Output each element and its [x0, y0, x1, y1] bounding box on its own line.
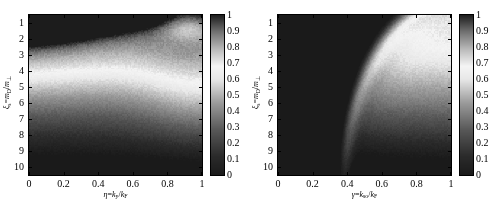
colorbar-tick-label: 0.4 [227, 106, 240, 116]
y-tick-label: 2 [268, 34, 273, 44]
axis-tick [448, 135, 451, 136]
axis-tick [199, 23, 202, 24]
y-tick-label: 1 [268, 18, 273, 28]
heatmap-axes-left[interactable] [28, 14, 203, 176]
axis-tick [278, 71, 281, 72]
colorbar-tick-label: 0.1 [227, 154, 240, 164]
heatmap-image-right [278, 15, 451, 175]
axis-tick [416, 15, 417, 18]
axis-tick [29, 172, 30, 175]
heatmap-image-left [29, 15, 202, 175]
axis-tick [278, 103, 281, 104]
colorbar-tick-label: 0 [476, 170, 481, 180]
axis-tick [448, 151, 451, 152]
y-tick-label: 5 [268, 82, 273, 92]
x-tick-label: 0 [27, 178, 32, 190]
axis-tick [448, 55, 451, 56]
axis-tick [133, 172, 134, 175]
axis-tick [167, 172, 168, 175]
colorbar-tick-label: 0.2 [476, 138, 489, 148]
axis-tick [416, 172, 417, 175]
axis-tick [201, 15, 202, 18]
y-tick-label: 2 [19, 34, 24, 44]
axis-tick [278, 167, 281, 168]
axis-tick [278, 23, 281, 24]
y-tick-label: 3 [19, 50, 24, 60]
panel-left: 00.20.40.60.81 12345678910 η=ky/kF ξs=mD… [0, 0, 249, 214]
axis-tick [278, 119, 281, 120]
x-tick-label: 0.8 [410, 178, 423, 190]
axis-tick [450, 172, 451, 175]
axis-tick [29, 15, 30, 18]
axis-tick [278, 172, 279, 175]
axis-tick [313, 15, 314, 18]
x-tick-label: 0.6 [376, 178, 389, 190]
x-tick-label: 1 [200, 178, 205, 190]
axis-tick [98, 172, 99, 175]
axis-tick [133, 15, 134, 18]
axis-tick [199, 135, 202, 136]
x-tick-labels-right: 00.20.40.60.81 [277, 178, 452, 190]
axis-tick [29, 71, 32, 72]
y-tick-label: 1 [19, 18, 24, 28]
colorbar-tick-label: 0.7 [227, 58, 240, 68]
axis-tick [278, 151, 281, 152]
colorbar-tick-labels-left: 00.10.20.30.40.50.60.70.80.91 [227, 14, 249, 176]
figure-root: 00.20.40.60.81 12345678910 η=ky/kF ξs=mD… [0, 0, 498, 214]
y-tick-label: 9 [19, 146, 24, 156]
axis-tick [448, 167, 451, 168]
axis-tick [199, 167, 202, 168]
colorbar-tick-label: 0.5 [227, 90, 240, 100]
axis-tick [98, 15, 99, 18]
axis-tick [278, 87, 281, 88]
heatmap-axes-right[interactable] [277, 14, 452, 176]
colorbar-tick-label: 0.7 [476, 58, 489, 68]
colorbar-tick-label: 0.3 [227, 122, 240, 132]
axis-tick [278, 15, 279, 18]
axis-tick [199, 71, 202, 72]
x-tick-label: 0.4 [341, 178, 354, 190]
y-tick-label: 7 [19, 114, 24, 124]
axis-tick [313, 172, 314, 175]
colorbar-tick-labels-right: 00.10.20.30.40.50.60.70.80.91 [476, 14, 498, 176]
axis-tick [29, 87, 32, 88]
y-tick-label: 10 [14, 162, 24, 172]
axis-tick [199, 87, 202, 88]
axis-tick [382, 172, 383, 175]
colorbar-tick-label: 0.9 [476, 26, 489, 36]
y-tick-label: 8 [268, 130, 273, 140]
y-axis-label-left: ξs=mD/m⊥ [2, 58, 11, 128]
axis-tick [64, 172, 65, 175]
axis-tick [199, 55, 202, 56]
axis-tick [199, 151, 202, 152]
colorbar-tick-label: 0.8 [227, 42, 240, 52]
axis-tick [29, 167, 32, 168]
axis-tick [448, 87, 451, 88]
y-tick-label: 6 [268, 98, 273, 108]
colorbar-tick-label: 1 [227, 10, 232, 20]
axis-tick [29, 119, 32, 120]
colorbar-tick-label: 0.8 [476, 42, 489, 52]
axis-tick [167, 15, 168, 18]
y-tick-label: 4 [268, 66, 273, 76]
y-tick-label: 5 [19, 82, 24, 92]
colorbar-tick-label: 0.5 [476, 90, 489, 100]
x-tick-label: 0.4 [92, 178, 105, 190]
colorbar-right[interactable] [459, 14, 474, 176]
axis-tick [450, 15, 451, 18]
x-tick-label: 0.8 [161, 178, 174, 190]
axis-tick [29, 151, 32, 152]
colorbar-tick-label: 0.6 [227, 74, 240, 84]
axis-tick [448, 71, 451, 72]
y-tick-label: 6 [19, 98, 24, 108]
axis-tick [278, 135, 281, 136]
y-tick-label: 8 [19, 130, 24, 140]
axis-tick [199, 119, 202, 120]
axis-tick [382, 15, 383, 18]
axis-tick [29, 23, 32, 24]
x-tick-label: 0.2 [306, 178, 319, 190]
colorbar-left[interactable] [210, 14, 225, 176]
axis-tick [29, 39, 32, 40]
y-tick-label: 3 [268, 50, 273, 60]
axis-tick [278, 55, 281, 56]
